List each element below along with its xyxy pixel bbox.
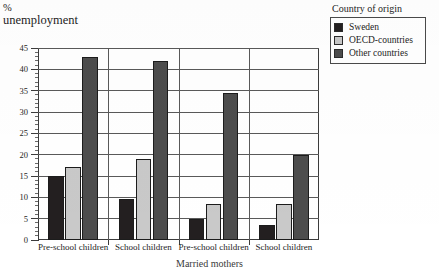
- legend-swatch-other-countries: [334, 49, 343, 58]
- y-axis-tick-label: 10: [20, 193, 29, 202]
- legend-label-sweden: Sweden: [349, 22, 379, 32]
- bar: [65, 167, 81, 240]
- y-axis-label: unemployment: [3, 14, 78, 27]
- y-axis-title: % unemployment: [3, 1, 78, 27]
- legend-label-other-countries: Other countries: [349, 48, 408, 58]
- legend-swatch-sweden: [334, 23, 343, 32]
- group-separator: [108, 48, 109, 240]
- y-axis-tick-label: 45: [20, 44, 29, 53]
- bar: [189, 219, 205, 240]
- x-axis-label: Pre-school children: [179, 242, 249, 252]
- bar: [206, 204, 222, 240]
- bar: [48, 176, 64, 240]
- plot-area: [38, 48, 319, 240]
- legend: Country of origin Sweden OECD-countries …: [330, 3, 436, 64]
- y-axis-tick-label: 0: [24, 236, 28, 245]
- bar: [153, 61, 169, 240]
- bar: [223, 93, 239, 240]
- legend-item-other-countries: Other countries: [334, 47, 421, 60]
- y-axis-tick-label: 35: [20, 87, 29, 96]
- bar: [293, 155, 309, 240]
- y-axis-tick-label: 20: [20, 151, 29, 160]
- legend-label-oecd-countries: OECD-countries: [349, 35, 413, 45]
- x-axis-label: School children: [108, 242, 178, 252]
- bar: [259, 225, 275, 240]
- legend-item-oecd-countries: OECD-countries: [334, 34, 421, 47]
- legend-swatch-oecd-countries: [334, 36, 343, 45]
- bar: [82, 57, 98, 240]
- y-axis-tick-label: 40: [20, 65, 29, 74]
- legend-box: Sweden OECD-countries Other countries: [330, 17, 426, 64]
- bar: [276, 204, 292, 240]
- x-axis-label: School children: [249, 242, 319, 252]
- y-axis-tick-label: 15: [20, 172, 29, 181]
- bar: [136, 159, 152, 240]
- x-axis-label: Pre-school children: [38, 242, 108, 252]
- y-axis-tick-label: 25: [20, 129, 29, 138]
- y-axis-tick-label: 5: [24, 215, 28, 224]
- group-separator: [179, 48, 180, 240]
- group-separator: [249, 48, 250, 240]
- legend-title: Country of origin: [332, 3, 404, 15]
- y-axis-tick-label: 30: [20, 108, 29, 117]
- legend-item-sweden: Sweden: [334, 21, 421, 34]
- bottom-caption-text: Married mothers: [176, 260, 243, 269]
- bottom-caption: Married mothers: [0, 260, 439, 269]
- bar: [119, 199, 135, 240]
